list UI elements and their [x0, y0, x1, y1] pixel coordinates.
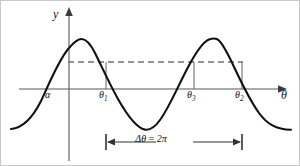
theta2-subscript: 2: [240, 95, 244, 103]
drop-lines-group: [106, 62, 242, 89]
delta-theta-value: 2π: [157, 133, 167, 144]
delta-theta-symbol: Δθ: [135, 133, 146, 144]
theta1-subscript: 1: [104, 95, 108, 103]
alpha-label: α: [45, 90, 50, 100]
theta3-label: θ3: [187, 90, 196, 103]
theta2-label: θ2: [235, 90, 244, 103]
y-axis-label: y: [53, 8, 58, 20]
sinusoid-curve: [11, 39, 291, 130]
x-axis-label: θ: [281, 89, 287, 101]
theta1-label: θ1: [99, 90, 108, 103]
figure-container: y θ α θ1 θ3 θ2 Δθ = 2π: [0, 0, 300, 166]
y-axis-arrowhead: [65, 7, 73, 16]
delta-theta-equals: =: [146, 133, 157, 144]
theta3-subscript: 3: [192, 95, 196, 103]
delta-theta-annotation-label: Δθ = 2π: [1, 134, 300, 144]
